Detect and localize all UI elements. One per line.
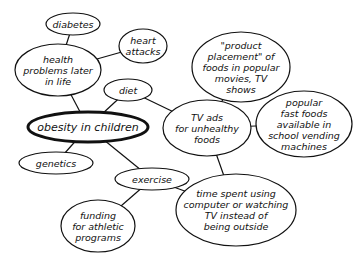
node-diabetes: diabetes: [46, 13, 100, 35]
node-fast-foods: popular fast foods available in school v…: [256, 91, 352, 157]
concept-map: diabetes heart attacks health problems l…: [0, 0, 356, 267]
node-time-spent: time spent using computer or watching TV…: [176, 174, 296, 246]
node-funding: funding for athletic programs: [61, 200, 135, 252]
node-health-problems: health problems later in life: [15, 44, 101, 96]
node-diet: diet: [104, 79, 152, 101]
node-tv-ads: TV ads for unhealthy foods: [163, 100, 251, 156]
node-obesity-in-children: obesity in children: [28, 112, 148, 142]
node-genetics: genetics: [19, 152, 93, 174]
node-heart-attacks: heart attacks: [119, 29, 167, 63]
